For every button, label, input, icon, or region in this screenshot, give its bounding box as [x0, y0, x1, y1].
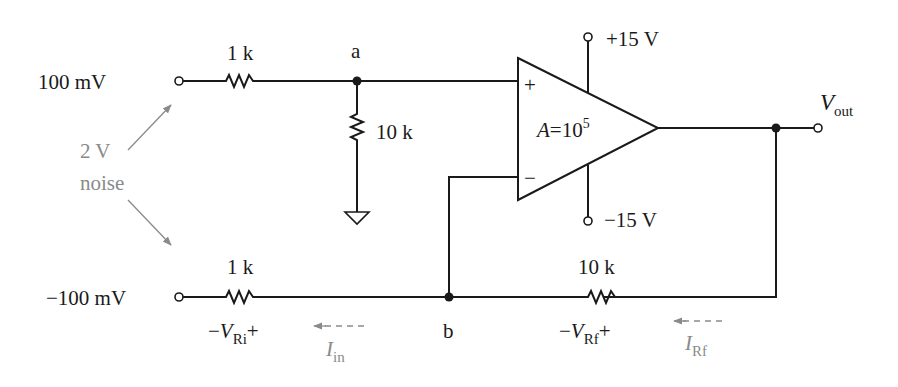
feedback-resistor-label: 10 k	[578, 255, 615, 279]
bottom-input-branch: −100 mV 1 k −VRi+ Iin	[46, 255, 449, 365]
irf-label: IRf	[684, 331, 707, 359]
top-input-wire-with-1k-resistor	[183, 75, 518, 87]
bottom-resistor-label: 1 k	[227, 255, 254, 279]
feedback-resistor-10k	[449, 291, 615, 303]
vri-label: −VRi+	[208, 319, 259, 347]
op-amp-minus-sign: −	[524, 166, 536, 190]
bottom-input-terminal	[175, 293, 183, 301]
shunt-resistor-10k	[351, 81, 363, 212]
vrf-label: −VRf+	[559, 319, 611, 347]
noise-label-line2: noise	[80, 171, 124, 195]
noise-annotation: 2 V noise	[80, 105, 171, 245]
positive-supply-label: +15 V	[606, 27, 659, 51]
top-input-voltage-label: 100 mV	[38, 70, 106, 94]
noise-label-line1: 2 V	[80, 139, 111, 163]
positive-supply-terminal	[584, 33, 592, 41]
output-section: Vout	[604, 90, 854, 297]
inverting-input-wire	[449, 177, 518, 297]
feedback-branch: 10 k −VRf+ IRf	[449, 255, 722, 359]
node-b-label: b	[443, 319, 454, 343]
node-b: b	[443, 293, 454, 344]
negative-supply-terminal	[584, 217, 592, 225]
iin-label: Iin	[325, 337, 345, 365]
node-a-label: a	[351, 39, 361, 63]
noise-arrow-down-icon	[128, 200, 171, 245]
noise-arrow-up-icon	[128, 105, 171, 150]
shunt-resistor-label: 10 k	[376, 120, 413, 144]
op-amp: + − A=105 +15 V −15 V	[518, 27, 659, 232]
op-amp-plus-sign: +	[524, 73, 536, 97]
node-a: a 10 k	[345, 39, 413, 224]
negative-supply-label: −15 V	[604, 208, 657, 232]
top-resistor-label: 1 k	[227, 41, 254, 65]
bottom-input-voltage-label: −100 mV	[46, 286, 126, 310]
output-label: Vout	[820, 90, 854, 119]
output-terminal	[814, 124, 822, 132]
circuit-diagram: 100 mV 1 k a 10 k 2 V noise + − A=105 +1…	[0, 0, 898, 387]
bottom-input-wire-with-1k-resistor	[183, 291, 449, 303]
op-amp-gain-label: A=105	[535, 116, 590, 142]
ground-icon	[345, 212, 369, 224]
top-input-branch: 100 mV 1 k	[38, 41, 518, 94]
top-input-terminal	[175, 77, 183, 85]
